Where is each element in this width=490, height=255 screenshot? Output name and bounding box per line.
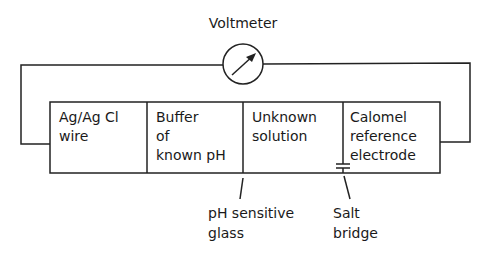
callout-salt-bridge: Salt bridge bbox=[333, 176, 378, 241]
ph-meter-diagram: Voltmeter Ag/Ag Cl wire Buffer of known … bbox=[0, 0, 490, 255]
svg-text:Salt: Salt bbox=[333, 205, 360, 221]
svg-text:pH sensitive: pH sensitive bbox=[208, 205, 294, 221]
cell-calomel-electrode: Calomel reference electrode bbox=[350, 109, 417, 163]
cell-buffer: Buffer of known pH bbox=[156, 109, 226, 163]
svg-text:reference: reference bbox=[350, 128, 417, 144]
svg-text:Unknown: Unknown bbox=[252, 109, 317, 125]
svg-text:electrode: electrode bbox=[350, 147, 416, 163]
svg-text:of: of bbox=[156, 128, 171, 144]
cell-unknown-solution: Unknown solution bbox=[252, 109, 317, 144]
voltmeter-label: Voltmeter bbox=[209, 15, 278, 31]
salt-bridge-icon bbox=[336, 164, 350, 173]
svg-text:wire: wire bbox=[59, 128, 88, 144]
svg-text:glass: glass bbox=[208, 225, 244, 241]
cell-ag-agcl-wire: Ag/Ag Cl wire bbox=[59, 109, 119, 144]
svg-text:Calomel: Calomel bbox=[350, 109, 407, 125]
voltmeter-icon bbox=[223, 44, 263, 84]
svg-text:known pH: known pH bbox=[156, 147, 226, 163]
callout-ph-glass: pH sensitive glass bbox=[208, 178, 294, 241]
svg-text:bridge: bridge bbox=[333, 225, 378, 241]
svg-text:solution: solution bbox=[252, 128, 307, 144]
svg-text:Buffer: Buffer bbox=[156, 109, 199, 125]
svg-text:Ag/Ag Cl: Ag/Ag Cl bbox=[59, 109, 119, 125]
